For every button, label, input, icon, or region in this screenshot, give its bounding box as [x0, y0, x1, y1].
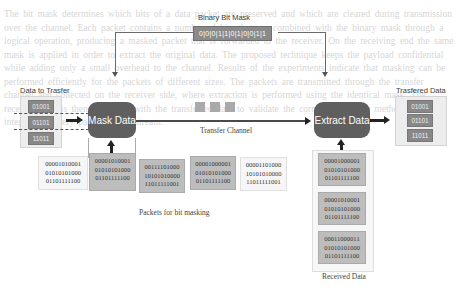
- packets-label: Packets for bit masking: [139, 208, 210, 217]
- packet-line: 01010101000: [323, 166, 361, 175]
- packet-square-icon: [195, 102, 205, 112]
- output-arrow-shaft: [370, 119, 385, 122]
- dashed-guide: [14, 129, 89, 130]
- packet-line: 01010101000: [323, 205, 361, 214]
- arrow-down-icon: [322, 72, 328, 77]
- packet-line: 00001000001: [323, 157, 361, 166]
- packet-line: 01010101000: [94, 166, 131, 175]
- arrow-right-icon: [384, 116, 390, 124]
- mask-line-right-down: [325, 32, 326, 73]
- received-packet: 00011000011 01010101000 01101111100: [318, 231, 366, 264]
- channel-label: Transfer Channel: [200, 126, 252, 135]
- packet-square-icon: [210, 102, 220, 112]
- packet-line: 01101111100: [195, 177, 231, 186]
- packet-line: 01101111100: [323, 252, 361, 261]
- packet-box: 00001010001 01010101000 01101111100: [38, 156, 88, 190]
- packet-line: 01101111100: [94, 174, 131, 183]
- arrow-down-icon: [112, 72, 118, 77]
- packet-line: 00111101000: [144, 163, 180, 172]
- packet-line: 01101111100: [323, 213, 361, 222]
- packet-line: 00001010001: [323, 196, 361, 205]
- output-data-chip: 11011: [407, 129, 433, 142]
- binary-bit-mask: 0|0|0|1|1|0|1|0|0|1|1: [193, 26, 272, 41]
- packet-box: 00111101000 10101010000 11011111001: [139, 159, 185, 193]
- received-label: Received Data: [322, 272, 366, 281]
- arrow-right-icon: [305, 117, 311, 125]
- input-data-chip: 01001: [28, 100, 54, 113]
- arrow-right-icon: [77, 116, 83, 124]
- packet-line: 10101010000: [245, 170, 282, 179]
- packet-square-icon: [225, 102, 235, 112]
- packet-line: 00001000001: [195, 160, 231, 169]
- input-data-chip: 01101: [28, 116, 54, 129]
- mask-line-left: [115, 32, 194, 33]
- extract-data-process: Extract Data: [314, 102, 370, 138]
- packet-line: 00001010001: [94, 157, 131, 166]
- packet-line: 01010101000: [323, 244, 361, 253]
- arrow-up-icon: [337, 139, 345, 145]
- input-label: Data to Trasfer: [20, 86, 70, 95]
- output-label: Trasfered Data: [396, 86, 446, 95]
- packet-line: 01010101000: [195, 169, 231, 178]
- transfer-channel-line: [136, 120, 308, 122]
- packet-line: 00011000011: [323, 235, 361, 244]
- dashed-guide: [14, 113, 89, 114]
- packet-box: 00001101000 10101010000 11011111001: [240, 157, 287, 191]
- mask-data-process: Mask Data: [88, 102, 136, 138]
- mask-line-left-down: [115, 32, 116, 73]
- packet-line: 01010101000: [43, 169, 83, 178]
- mask-line-right: [278, 32, 326, 33]
- arrow-up-icon: [107, 140, 115, 146]
- packet-line: 01101111100: [323, 174, 361, 183]
- packet-line: 10101010000: [144, 172, 180, 181]
- received-packet: 00001000001 01010101000 01101111100: [318, 153, 366, 186]
- packet-box: 00001010001 01010101000 01101111100: [89, 153, 136, 191]
- background-document-text: The bit mask determines which bits of a …: [0, 0, 458, 287]
- received-packet: 00001010001 01010101000 01101111100: [318, 192, 366, 225]
- packet-line: 11011111001: [245, 178, 282, 187]
- packet-box: 00001000001 01010101000 01101111100: [190, 156, 236, 190]
- input-data-chip: 11011: [28, 132, 54, 145]
- mask-label: Binary Bit Mask: [198, 13, 250, 22]
- packet-line: 00001101000: [245, 161, 282, 170]
- output-data-chip: 01001: [407, 100, 433, 113]
- output-data-chip: 01101: [407, 114, 433, 127]
- packet-arrow-shaft: [110, 145, 113, 153]
- packet-line: 11011111001: [144, 180, 180, 189]
- packet-line: 01101111100: [43, 177, 83, 186]
- packet-line: 00001010001: [43, 160, 83, 169]
